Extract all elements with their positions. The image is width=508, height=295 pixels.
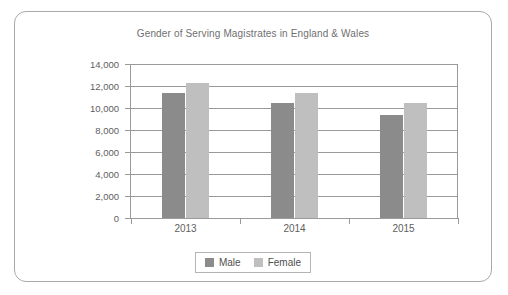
chart-frame: Gender of Serving Magistrates in England… — [14, 11, 492, 282]
y-tick-label: 0 — [67, 213, 119, 224]
x-tick-label-2014: 2014 — [265, 223, 325, 234]
y-tick-label: 2,000 — [67, 191, 119, 202]
y-tick-label: 4,000 — [67, 169, 119, 180]
x-axis-line — [131, 218, 459, 219]
chart-legend: MaleFemale — [195, 252, 311, 273]
legend-item-male[interactable]: Male — [205, 257, 241, 268]
x-tick-mark — [349, 219, 350, 224]
bar-male-2015[interactable] — [380, 115, 403, 218]
bar-male-2013[interactable] — [162, 93, 185, 218]
bar-male-2014[interactable] — [271, 103, 294, 218]
bar-female-2014[interactable] — [295, 93, 318, 218]
legend-item-female[interactable]: Female — [254, 257, 301, 268]
y-axis-labels: 14,00012,00010,0008,0006,0004,0002,0000 — [67, 12, 123, 281]
y-tick-label: 14,000 — [67, 59, 119, 70]
y-tick-label: 10,000 — [67, 103, 119, 114]
y-tick-label: 12,000 — [67, 81, 119, 92]
x-tick-label-2015: 2015 — [374, 223, 434, 234]
x-tick-mark — [131, 219, 132, 224]
y-tick-label: 8,000 — [67, 125, 119, 136]
bar-group — [380, 64, 427, 218]
bar-female-2015[interactable] — [404, 103, 427, 219]
plot-area — [131, 64, 458, 218]
bar-female-2013[interactable] — [186, 83, 209, 218]
legend-swatch-male-icon — [205, 258, 214, 267]
x-tick-mark — [458, 219, 459, 224]
plot-right-border — [457, 64, 458, 218]
y-tick-label: 6,000 — [67, 147, 119, 158]
bar-group — [271, 64, 318, 218]
x-tick-mark — [240, 219, 241, 224]
legend-swatch-female-icon — [254, 258, 263, 267]
legend-label: Female — [268, 257, 301, 268]
x-tick-label-2013: 2013 — [156, 223, 216, 234]
bar-group — [162, 64, 209, 218]
legend-label: Male — [219, 257, 241, 268]
